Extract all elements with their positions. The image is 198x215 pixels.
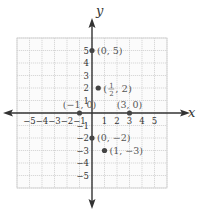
x-tick-label: 4: [139, 116, 144, 126]
y-tick-label: −2: [76, 133, 89, 143]
x-tick-label: −2: [61, 116, 74, 126]
y-tick-label: −3: [76, 146, 89, 156]
point-label: (0, 5): [97, 45, 123, 56]
svg-text:1: 1: [109, 82, 113, 90]
x-tick-label: 2: [114, 116, 119, 126]
x-tick-label: −4: [36, 116, 49, 126]
data-point: [89, 48, 94, 53]
data-point: [89, 135, 94, 140]
x-tick-label: 5: [152, 116, 157, 126]
x-tick-label: 1: [102, 116, 107, 126]
y-tick-label: −4: [76, 158, 89, 168]
y-tick-label: 2: [84, 83, 89, 93]
point-label: (1, −3): [110, 145, 144, 156]
data-point: [96, 85, 101, 90]
y-tick-label: 5: [84, 46, 89, 56]
y-tick-label: −5: [76, 171, 89, 181]
x-tick-label: −3: [48, 116, 61, 126]
x-axis-label: x: [188, 105, 196, 120]
x-tick-label: −5: [23, 116, 36, 126]
point-label: (−1, 0): [63, 99, 97, 110]
y-axis-label: y: [95, 3, 104, 18]
x-tick-label: 3: [127, 116, 132, 126]
data-point: [102, 148, 107, 153]
svg-text:2: 2: [109, 90, 113, 98]
data-point: [77, 110, 82, 115]
y-tick-label: 4: [84, 58, 89, 68]
y-tick-label: 3: [84, 71, 89, 81]
svg-text:, 2): , 2): [115, 83, 132, 94]
data-point: [127, 110, 132, 115]
point-label: (3, 0): [117, 99, 143, 110]
y-tick-label: −1: [76, 121, 89, 131]
coordinate-plane: −5−4−3−2−11234554321−1−2−3−4−5 (0, 5)(12…: [0, 0, 198, 215]
point-label: (0, −2): [97, 132, 131, 143]
svg-text:(: (: [103, 83, 107, 94]
